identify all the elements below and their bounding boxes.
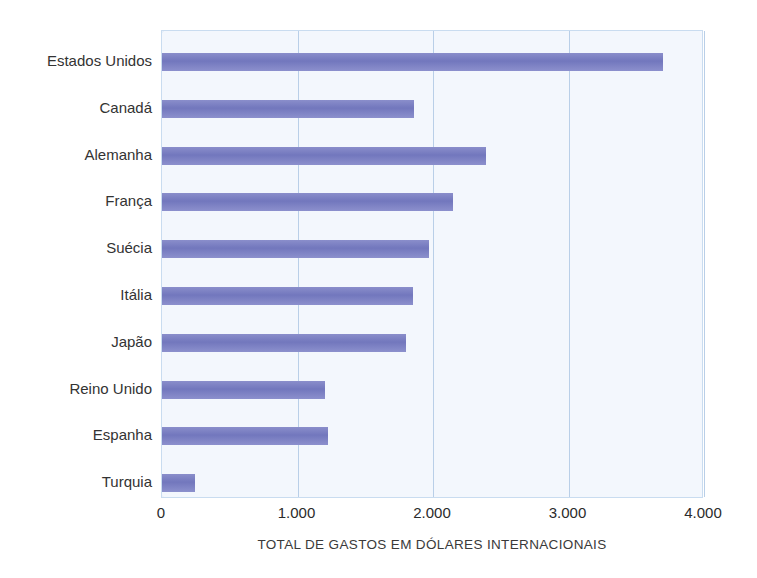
bar	[162, 381, 325, 399]
bar-chart: Estados UnidosCanadáAlemanhaFrançaSuécia…	[0, 0, 757, 578]
x-axis-tick-label: 0	[157, 503, 165, 523]
gridline	[433, 31, 434, 497]
x-axis-tick-label: 4.000	[684, 503, 722, 523]
y-axis-label: Japão	[2, 333, 152, 351]
y-axis-label: Espanha	[2, 426, 152, 444]
y-axis-label: Turquia	[2, 473, 152, 491]
bar	[162, 100, 414, 118]
x-axis-tick-label: 3.000	[549, 503, 587, 523]
y-axis-label: Estados Unidos	[2, 52, 152, 70]
bar	[162, 147, 486, 165]
bar	[162, 287, 413, 305]
bar	[162, 427, 328, 445]
bar	[162, 53, 663, 71]
y-axis-label: Canadá	[2, 99, 152, 117]
y-axis-label: França	[2, 192, 152, 210]
bar	[162, 334, 406, 352]
y-axis-label: Suécia	[2, 239, 152, 257]
y-axis-labels: Estados UnidosCanadáAlemanhaFrançaSuécia…	[0, 30, 152, 498]
bar	[162, 193, 453, 211]
bar	[162, 240, 429, 258]
x-axis-tick-labels: 01.0002.0003.0004.000	[0, 503, 757, 525]
y-axis-label: Alemanha	[2, 146, 152, 164]
x-axis-title: TOTAL DE GASTOS EM DÓLARES INTERNACIONAI…	[161, 537, 703, 552]
gridline	[569, 31, 570, 497]
x-axis-tick-label: 2.000	[413, 503, 451, 523]
y-axis-label: Reino Unido	[2, 380, 152, 398]
x-axis-tick-label: 1.000	[278, 503, 316, 523]
y-axis-label: Itália	[2, 286, 152, 304]
gridline	[704, 31, 705, 497]
bar	[162, 474, 195, 492]
plot-area	[161, 30, 703, 498]
